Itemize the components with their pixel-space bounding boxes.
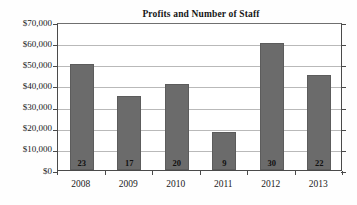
- x-axis-ticks: [57, 171, 342, 175]
- x-axis-tick: [295, 171, 296, 175]
- bar-slot: 20: [165, 24, 189, 170]
- y-axis-tick: [341, 45, 346, 46]
- y-axis-tick-label: $10,000: [0, 145, 52, 154]
- y-axis-tick-label: $70,000: [0, 19, 52, 28]
- bar-value-label: 9: [213, 159, 235, 168]
- x-axis-tick: [247, 171, 248, 175]
- bar[interactable]: 23: [70, 64, 94, 170]
- x-axis-tick-label: 2013: [295, 178, 343, 190]
- bar-chart-figure: Profits and Number of Staff $0$10,000$20…: [0, 0, 357, 205]
- bar[interactable]: 22: [307, 75, 331, 170]
- y-axis-tick-label: $60,000: [0, 40, 52, 49]
- y-axis-tick: [341, 66, 346, 67]
- x-axis-tick-label: 2011: [200, 178, 248, 190]
- bar-slot: 30: [260, 24, 284, 170]
- bar-value-label: 17: [118, 159, 140, 168]
- bar-value-label: 30: [261, 159, 283, 168]
- bar-slot: 23: [70, 24, 94, 170]
- bar-value-label: 23: [71, 159, 93, 168]
- x-axis-tick-label: 2010: [152, 178, 200, 190]
- plot-area: 23172093022: [57, 23, 342, 171]
- y-axis-labels: $0$10,000$20,000$30,000$40,000$50,000$60…: [0, 23, 52, 171]
- bar[interactable]: 17: [117, 96, 141, 170]
- y-axis-tick-label: $50,000: [0, 61, 52, 70]
- y-axis-tick-label: $20,000: [0, 124, 52, 133]
- bar[interactable]: 30: [260, 43, 284, 170]
- chart-title: Profits and Number of Staff: [57, 8, 345, 21]
- y-axis-tick: [341, 109, 346, 110]
- bar[interactable]: 9: [212, 132, 236, 170]
- x-axis-tick-label: 2012: [247, 178, 295, 190]
- y-axis-tick-label: $40,000: [0, 82, 52, 91]
- x-axis-tick: [200, 171, 201, 175]
- x-axis-tick: [57, 171, 58, 175]
- x-axis-tick: [152, 171, 153, 175]
- y-axis-tick-label: $30,000: [0, 103, 52, 112]
- x-axis-tick-label: 2008: [57, 178, 105, 190]
- x-axis-tick: [342, 171, 343, 175]
- y-axis-tick: [341, 130, 346, 131]
- x-axis-labels: 200820092010201120122013: [57, 178, 342, 192]
- y-axis-tick: [341, 24, 346, 25]
- bars-layer: 23172093022: [58, 24, 341, 170]
- bar-value-label: 22: [308, 159, 330, 168]
- y-axis-tick-label: $0: [0, 167, 52, 176]
- y-axis-tick: [341, 87, 346, 88]
- bar-slot: 22: [307, 24, 331, 170]
- bar-slot: 17: [117, 24, 141, 170]
- bar-slot: 9: [212, 24, 236, 170]
- x-axis-tick-label: 2009: [105, 178, 153, 190]
- x-axis-tick: [105, 171, 106, 175]
- bar[interactable]: 20: [165, 84, 189, 170]
- bar-value-label: 20: [166, 159, 188, 168]
- y-axis-tick: [341, 151, 346, 152]
